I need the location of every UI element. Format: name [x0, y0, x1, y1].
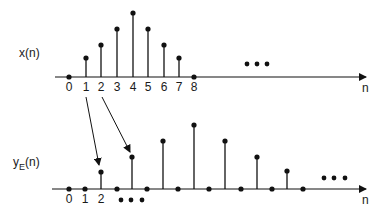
bottom-signal-label: yE(n)	[13, 155, 40, 172]
bottom-ellipsis	[322, 176, 348, 181]
tick-label: 4	[130, 80, 137, 94]
tick-label: 8	[191, 80, 198, 94]
tick-label: 6	[161, 80, 168, 94]
bottom-tick-labels: 0 1 2	[66, 192, 105, 206]
tick-label: 1	[83, 80, 90, 94]
tick-label: 1	[82, 192, 89, 206]
bottom-tick-ellipsis	[119, 198, 145, 203]
top-tick-labels: 0 1 2 3 4 5 6 7 8	[66, 80, 198, 94]
top-signal-label: x(n)	[19, 46, 40, 60]
tick-label: 0	[66, 80, 73, 94]
tick-label: 3	[114, 80, 121, 94]
tick-label: 2	[98, 192, 105, 206]
bottom-stems	[66, 122, 305, 191]
top-ellipsis	[245, 62, 270, 67]
top-stems	[66, 10, 196, 79]
upsampling-diagram: x(n) n 0 1 2 3 4 5 6 7 8 yE(n) n	[0, 0, 384, 215]
tick-label: 7	[176, 80, 183, 94]
top-axis-n-label: n	[362, 81, 369, 95]
mapping-arrow-2	[102, 97, 130, 152]
tick-label: 2	[98, 80, 105, 94]
tick-label: 5	[145, 80, 152, 94]
tick-label: 0	[66, 192, 73, 206]
bottom-axis-n-label: n	[362, 193, 369, 207]
mapping-arrow-1	[86, 97, 99, 165]
